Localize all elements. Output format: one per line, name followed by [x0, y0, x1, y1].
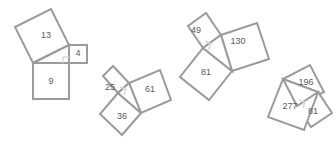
figure-3-label-leg-b: 81: [201, 67, 211, 77]
figure-3-group: 49 130 81: [180, 13, 269, 100]
figure-2-label-leg-a: 25: [105, 82, 115, 92]
figure-3-label-leg-a: 49: [191, 25, 201, 35]
figure-4-label-leg-a: 196: [298, 77, 313, 87]
figure-1-group: 13 4 9: [15, 9, 87, 99]
figure-1-label-leg-b: 9: [48, 76, 53, 86]
figure-1-label-leg-a: 4: [75, 48, 80, 58]
figure-3-label-hypotenuse: 130: [230, 36, 245, 46]
figure-4-label-leg-b: 81: [308, 106, 318, 116]
figure-2-label-hypotenuse: 61: [145, 84, 155, 94]
figure-4-label-hypotenuse: 277: [282, 101, 297, 111]
figure-2-label-leg-b: 36: [117, 111, 127, 121]
figure-canvas: 13 4 9 25 61 36: [0, 0, 336, 149]
figure-4-group: 196 81 277: [268, 65, 332, 130]
figure-1-label-hypotenuse: 13: [41, 30, 51, 40]
figure-2-group: 25 61 36: [100, 66, 171, 135]
